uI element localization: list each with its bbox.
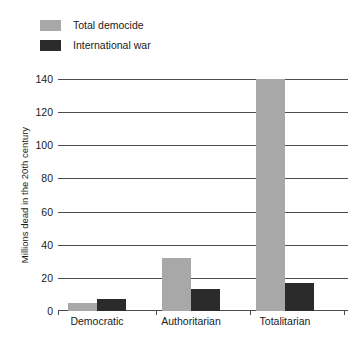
x-axis-tick bbox=[58, 311, 59, 315]
legend-swatch-international-war bbox=[40, 40, 61, 51]
x-tick-label: Totalitarian bbox=[260, 315, 311, 327]
chart-legend: Total democide International war bbox=[40, 16, 260, 56]
legend-label-total-democide: Total democide bbox=[73, 20, 144, 31]
y-tick-label: 80 bbox=[41, 173, 53, 184]
plot-area: 020406080100120140DemocraticAuthoritaria… bbox=[58, 79, 348, 311]
x-axis-tick bbox=[344, 311, 345, 315]
y-tick-label: 40 bbox=[41, 239, 53, 250]
y-tick-label: 140 bbox=[35, 74, 53, 85]
y-tick-label: 60 bbox=[41, 206, 53, 217]
gridline bbox=[58, 79, 348, 80]
legend-item-total-democide: Total democide bbox=[40, 16, 260, 34]
y-axis-title: Millions dead in the 20th century bbox=[18, 79, 32, 311]
bar bbox=[68, 303, 97, 311]
bar bbox=[256, 79, 285, 311]
y-tick-label: 20 bbox=[41, 272, 53, 283]
bar bbox=[191, 289, 220, 311]
y-tick-label: 0 bbox=[47, 306, 53, 317]
gridline bbox=[58, 178, 348, 179]
bar-chart: Total democide International war Million… bbox=[0, 0, 353, 337]
gridline bbox=[58, 145, 348, 146]
y-tick-label: 100 bbox=[35, 140, 53, 151]
gridline bbox=[58, 212, 348, 213]
legend-item-international-war: International war bbox=[40, 36, 260, 54]
bar bbox=[97, 299, 126, 311]
x-axis-tick bbox=[250, 311, 251, 315]
bar bbox=[285, 283, 314, 311]
gridline bbox=[58, 278, 348, 279]
x-axis-tick bbox=[156, 311, 157, 315]
gridline bbox=[58, 245, 348, 246]
x-tick-label: Democratic bbox=[70, 315, 123, 327]
legend-swatch-total-democide bbox=[40, 20, 61, 31]
y-tick-label: 120 bbox=[35, 107, 53, 118]
bar bbox=[162, 258, 191, 311]
gridline bbox=[58, 112, 348, 113]
x-tick-label: Authoritarian bbox=[161, 315, 221, 327]
legend-label-international-war: International war bbox=[73, 40, 151, 51]
